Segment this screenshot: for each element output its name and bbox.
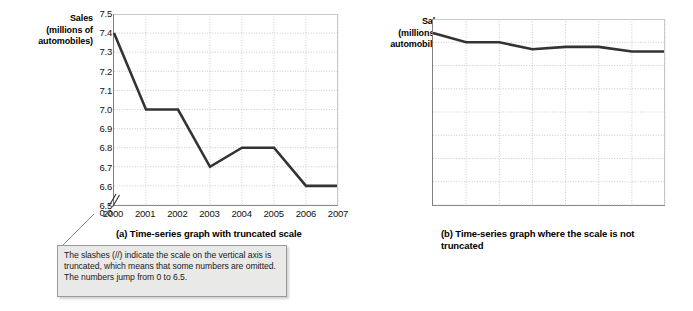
axis-title-line-2: (millions of — [46, 25, 93, 35]
y-tick-label: 7.4 — [90, 27, 112, 38]
y-tick-label: 6.9 — [90, 123, 112, 134]
x-tick-label: 2006 — [289, 208, 323, 219]
chart-a-y-axis-title: Sales (millions of automobiles) — [0, 13, 93, 48]
axis-title-line-3: automobiles) — [38, 36, 93, 46]
truncated-scale-callout: The slashes (//) indicate the scale on t… — [57, 245, 287, 297]
y-tick-label: 6.7 — [90, 162, 112, 173]
x-tick-label: 2002 — [160, 208, 194, 219]
chart-a-plot-area — [113, 14, 338, 206]
chart-b-plot-area — [432, 19, 665, 206]
x-tick-label: 2005 — [257, 208, 291, 219]
y-tick-label: 7.3 — [90, 46, 112, 57]
chart-a-caption: (a) Time-series graph with truncated sca… — [116, 228, 336, 240]
y-tick-label: 7.5 — [90, 8, 112, 19]
x-tick-label: 2001 — [128, 208, 162, 219]
x-tick-label: 2003 — [192, 208, 226, 219]
x-tick-label: 2000 — [96, 208, 130, 219]
chart-a-data-line — [114, 14, 338, 205]
y-tick-label: 6.6 — [90, 181, 112, 192]
y-tick-label: 7.2 — [90, 66, 112, 77]
x-tick-label: 2004 — [225, 208, 259, 219]
chart-b-caption: (b) Time-series graph where the scale is… — [441, 228, 656, 252]
y-tick-label: 7.1 — [90, 85, 112, 96]
chart-panel-b: Sales (millions of automobiles) 8.07.06.… — [347, 0, 693, 311]
y-tick-label: 6.8 — [90, 142, 112, 153]
chart-b-data-line — [433, 19, 665, 205]
callout-leader-line — [60, 213, 96, 247]
y-tick-label: 7.0 — [90, 104, 112, 115]
